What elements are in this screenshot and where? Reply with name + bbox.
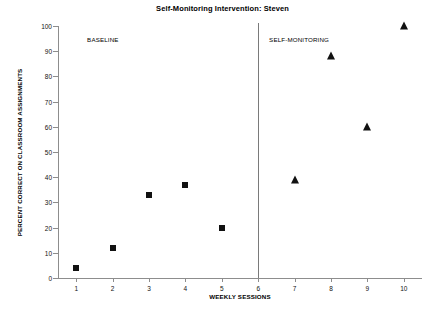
y-axis-tick-mark [53,76,58,77]
chart-title: Self-Monitoring Intervention: Steven [0,4,445,13]
x-axis-tick-label: 8 [329,285,333,292]
data-point-marker [363,122,371,130]
data-point-marker [182,182,188,188]
data-point-marker [110,245,116,251]
data-point-marker [400,22,408,30]
y-axis-tick-label: 100 [30,23,52,30]
x-axis-tick-mark [331,278,332,282]
y-axis-tick-mark [53,26,58,27]
y-axis-tick-label: 40 [30,174,52,181]
y-axis-tick-label: 20 [30,224,52,231]
y-axis-tick-mark [53,127,58,128]
y-axis-tick-label: 30 [30,199,52,206]
x-axis-tick-label: 9 [366,285,370,292]
data-point-marker [327,52,335,60]
data-point-marker [73,265,79,271]
x-axis-tick-mark [222,278,223,282]
x-axis-tick-label: 10 [400,285,407,292]
y-axis-tick-mark [53,202,58,203]
x-axis-tick-mark [295,278,296,282]
x-axis-tick-mark [76,278,77,282]
chart-figure: Self-Monitoring Intervention: Steven PER… [0,0,445,321]
x-axis-tick-label: 2 [111,285,115,292]
y-axis-tick-label: 70 [30,98,52,105]
x-axis-tick-mark [185,278,186,282]
x-axis-tick-mark [113,278,114,282]
y-axis-tick-mark [53,228,58,229]
x-axis-tick-label: 1 [74,285,78,292]
x-axis-tick-label: 4 [184,285,188,292]
y-axis-tick-mark [53,152,58,153]
y-axis-tick-mark [53,102,58,103]
x-axis-tick-label: 7 [293,285,297,292]
y-axis-tick-mark [53,51,58,52]
y-axis-tick-label: 90 [30,48,52,55]
x-axis-tick-mark [367,278,368,282]
y-axis-tick-label: 50 [30,149,52,156]
x-axis-title: WEEKLY SESSIONS [58,293,422,300]
x-axis-tick-label: 6 [256,285,260,292]
y-axis-tick-label: 10 [30,249,52,256]
x-axis-tick-mark [258,278,259,282]
y-axis-tick-mark [53,278,58,279]
y-axis-title-label: PERCENT CORRECT ON CLASSROOM ASSIGNMENTS [17,68,24,236]
y-axis-tick-label: 60 [30,123,52,130]
phase-label: BASELINE [87,36,118,43]
y-axis-title: PERCENT CORRECT ON CLASSROOM ASSIGNMENTS [14,26,26,278]
plot-area: 010203040506070809010012345678910BASELIN… [58,26,422,278]
y-axis-tick-label: 80 [30,73,52,80]
y-axis-tick-mark [53,253,58,254]
data-point-marker [219,225,225,231]
data-point-marker [146,192,152,198]
data-point-marker [291,175,299,183]
x-axis-tick-mark [404,278,405,282]
phase-label: SELF-MONITORING [269,36,329,43]
x-axis-tick-label: 3 [147,285,151,292]
x-axis-tick-mark [149,278,150,282]
y-axis-tick-mark [53,177,58,178]
phase-divider-line [258,23,259,278]
x-axis-tick-label: 5 [220,285,224,292]
y-axis-tick-label: 0 [30,275,52,282]
